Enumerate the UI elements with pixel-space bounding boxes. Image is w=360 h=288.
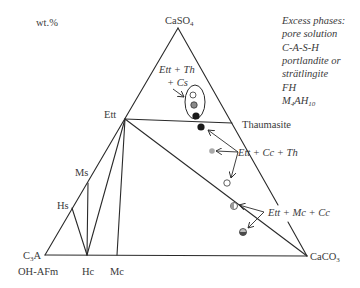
- data-points: [190, 92, 247, 236]
- assemblage-label-ett-th-cs-line1: Ett + Th: [158, 64, 195, 75]
- arrow-to-ellipse: [173, 89, 184, 97]
- assemblage-label-ett-cc-th: Ett + Cc + Th: [237, 147, 298, 158]
- triangle-frame: [45, 28, 307, 256]
- units-label: wt.%: [36, 17, 58, 28]
- excess-phase-item: M4AH10: [281, 95, 316, 108]
- phase-label-mc: Mc: [110, 266, 124, 277]
- bottom-edge: [45, 255, 307, 256]
- phase-label-thaumasite: Thaumasite: [242, 119, 291, 130]
- right-edge-lower: [288, 222, 307, 256]
- data-point-gray: [191, 102, 197, 108]
- tie-line-ett-caco3: [125, 119, 307, 256]
- arrow-to-gray-point: [216, 151, 238, 152]
- tie-lines: [72, 119, 307, 256]
- data-point-open: [190, 92, 196, 98]
- phase-label-ett: Ett: [104, 109, 116, 120]
- tie-line-hs-hc: [72, 208, 87, 255]
- excess-phase-item: FH: [281, 82, 297, 93]
- vertex-label-oh-afm: OH-AFm: [18, 266, 58, 277]
- tie-line-ett-thaumasite: [125, 119, 232, 123]
- left-edge: [45, 28, 178, 255]
- vertex-label-caso4: CaSO4: [165, 15, 194, 28]
- arrow-to-open-point: [231, 152, 238, 178]
- phase-label-ms: Ms: [75, 167, 88, 178]
- arrow-to-half-gray-point: [239, 205, 264, 212]
- data-point-black: [192, 112, 199, 119]
- tie-line-ms-hc: [87, 183, 88, 255]
- assemblage-label-ett-th-cs-line2: + Cs: [167, 77, 188, 88]
- data-point-light-gray: [209, 148, 215, 154]
- data-point-half-dark: [240, 229, 247, 236]
- data-point-black: [197, 123, 204, 130]
- tie-line-ett-mc: [117, 119, 125, 255]
- ternary-phase-diagram: wt.% CaSO4 CaCO3 C3A OH-AFm Ett Ms Hs Hc…: [0, 0, 360, 288]
- data-point-open: [224, 180, 230, 186]
- phase-label-hs: Hs: [57, 200, 69, 211]
- excess-phase-item: strätlingite: [282, 68, 328, 79]
- excess-phase-item: C-A-S-H: [282, 42, 320, 53]
- excess-phase-item: pore solution: [281, 28, 337, 39]
- excess-phase-item: portlandite or: [281, 55, 342, 66]
- vertex-label-c3a: C3A: [23, 250, 42, 263]
- data-point-half-gray: [231, 203, 238, 210]
- excess-phases-title: Excess phases:: [281, 15, 345, 26]
- assemblage-label-ett-mc-cc: Ett + Mc + Cc: [267, 207, 330, 218]
- vertex-label-caco3: CaCO3: [310, 251, 340, 264]
- arrow-to-half-dark-point: [248, 212, 264, 228]
- tie-line-ett-hc: [87, 119, 125, 255]
- annotation-arrows: [173, 89, 264, 228]
- phase-label-hc: Hc: [82, 266, 95, 277]
- excess-phases-legend: Excess phases: pore solution C-A-S-H por…: [281, 15, 345, 108]
